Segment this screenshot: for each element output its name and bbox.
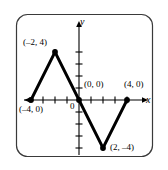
marker-neg2-4 — [52, 49, 58, 55]
origin-zero-label: 0 — [70, 102, 75, 111]
label-valley-right: (2, –4) — [110, 143, 134, 152]
y-axis — [76, 26, 83, 155]
x-axis-label: x — [146, 95, 150, 105]
marker-4-0 — [124, 97, 130, 103]
label-x-intercept-left: (–4, 0) — [19, 105, 43, 114]
label-x-intercept-right: (4, 0) — [124, 80, 144, 89]
y-axis-label: y — [80, 17, 84, 27]
marker-2-neg4 — [100, 145, 106, 151]
graph-figure: (–2, 4) (–4, 0) (0, 0) (4, 0) (2, –4) x … — [0, 0, 168, 170]
label-peak-left: (–2, 4) — [23, 38, 47, 47]
marker-0-0 — [76, 97, 82, 103]
marker-neg4-0 — [28, 97, 34, 103]
label-origin-point: (0, 0) — [84, 80, 104, 89]
